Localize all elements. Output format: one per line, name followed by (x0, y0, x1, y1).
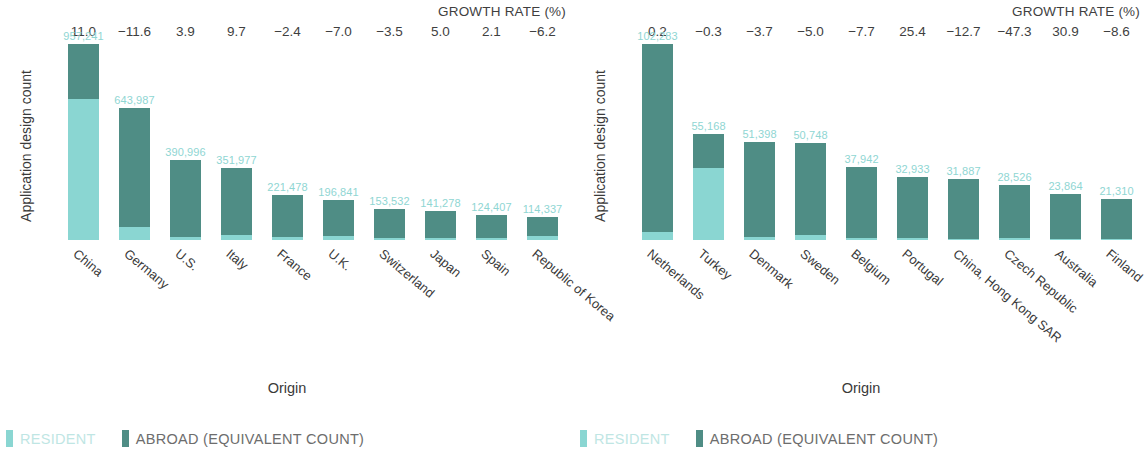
bar-segment-abroad (374, 209, 405, 239)
legend-label-abroad: ABROAD (EQUIVALENT COUNT) (710, 431, 939, 447)
bar-slot: 31,887 (938, 44, 989, 240)
stacked-bar[interactable]: 153,532 (374, 209, 405, 240)
bar-value-label: 21,310 (1099, 185, 1133, 197)
bar-value-label: 153,532 (369, 195, 409, 207)
growth-rate-value: −2.4 (262, 24, 313, 42)
x-tick-slot: Italy (211, 242, 262, 354)
stacked-bar[interactable]: 32,933 (897, 177, 928, 240)
growth-rate-value: −3.7 (734, 24, 785, 42)
plot-area-left: 957,241643,987390,996351,977221,478196,8… (58, 44, 568, 240)
bar-segment-resident (425, 238, 456, 240)
legend-label-resident: RESIDENT (594, 431, 670, 447)
growth-rate-value: −7.0 (313, 24, 364, 42)
legend-left: RESIDENT ABROAD (EQUIVALENT COUNT) (6, 430, 364, 447)
x-tick-slot: Denmark (734, 242, 785, 354)
stacked-bar[interactable]: 124,407 (476, 215, 507, 240)
chart-panel-right: GROWTH RATE (%) 0.2−0.3−3.7−5.0−7.725.4−… (574, 0, 1148, 459)
stacked-bar[interactable]: 221,478 (272, 195, 303, 240)
stacked-bar[interactable]: 37,942 (846, 167, 877, 240)
stacked-bar[interactable]: 196,841 (323, 200, 354, 240)
stacked-bar[interactable]: 114,337 (527, 217, 558, 240)
growth-rate-row-right: 0.2−0.3−3.7−5.0−7.725.4−12.7−47.330.9−8.… (632, 24, 1142, 42)
stacked-bar[interactable]: 141,278 (425, 211, 456, 240)
stacked-bar[interactable]: 643,987 (119, 108, 150, 240)
x-tick-slot: Republic of Korea (517, 242, 568, 354)
stacked-bar[interactable]: 23,864 (1050, 194, 1081, 240)
stacked-bar[interactable]: 51,398 (744, 142, 775, 240)
x-tick-label: Japan (427, 246, 464, 280)
bar-segment-abroad (119, 108, 150, 227)
stacked-bar[interactable]: 28,526 (999, 185, 1030, 240)
bar-segment-abroad (272, 195, 303, 238)
bar-segment-resident (948, 239, 979, 240)
x-tick-label: France (274, 246, 315, 284)
stacked-bar[interactable]: 31,887 (948, 179, 979, 240)
stacked-bar[interactable]: 21,310 (1101, 199, 1132, 240)
bar-value-label: 643,987 (114, 94, 154, 106)
bar-slot: 351,977 (211, 44, 262, 240)
legend-item-abroad-left: ABROAD (EQUIVALENT COUNT) (122, 430, 365, 447)
bar-value-label: 32,933 (895, 163, 929, 175)
bar-segment-resident (693, 168, 724, 240)
stacked-bar[interactable]: 102,283 (642, 44, 673, 240)
bar-segment-resident (374, 238, 405, 240)
bar-segment-abroad (425, 211, 456, 238)
bar-value-label: 51,398 (742, 128, 776, 140)
stacked-bar[interactable]: 351,977 (221, 168, 252, 240)
bar-segment-resident (744, 237, 775, 240)
y-axis-title-right: Application design count (592, 26, 608, 266)
bar-segment-resident (323, 236, 354, 240)
x-tick-label: U.K. (325, 246, 354, 274)
bar-slot: 32,933 (887, 44, 938, 240)
growth-rate-header-right: GROWTH RATE (%) (1012, 4, 1140, 19)
bar-segment-abroad (795, 143, 826, 235)
stacked-bar[interactable]: 390,996 (170, 160, 201, 240)
x-axis-tick-labels-left: ChinaGermanyU.S.ItalyFranceU.K.Switzerla… (58, 242, 568, 354)
growth-rate-header-left: GROWTH RATE (%) (438, 4, 566, 19)
plot-area-right: 102,28355,16851,39850,74837,94232,93331,… (632, 44, 1142, 240)
bar-value-label: 957,241 (63, 30, 103, 42)
bar-value-label: 55,168 (691, 120, 725, 132)
stacked-bar[interactable]: 957,241 (68, 44, 99, 240)
bar-segment-abroad (476, 215, 507, 239)
legend-item-abroad-right: ABROAD (EQUIVALENT COUNT) (696, 430, 939, 447)
bar-slot: 23,864 (1040, 44, 1091, 240)
bar-segment-resident (221, 235, 252, 240)
growth-rate-value: 5.0 (415, 24, 466, 42)
legend-item-resident-left: RESIDENT (6, 430, 96, 447)
bar-value-label: 23,864 (1048, 180, 1082, 192)
x-tick-label: Spain (478, 246, 513, 279)
bar-value-label: 50,748 (793, 129, 827, 141)
bar-segment-abroad (170, 160, 201, 237)
bar-segment-resident (170, 237, 201, 240)
x-tick-label: China (70, 246, 106, 279)
x-tick-slot: U.S. (160, 242, 211, 354)
stacked-bar[interactable]: 55,168 (693, 134, 724, 240)
x-tick-slot: U.K. (313, 242, 364, 354)
bar-segment-resident (642, 232, 673, 240)
x-tick-label: Italy (223, 246, 251, 273)
bar-slot: 124,407 (466, 44, 517, 240)
stacked-bar[interactable]: 50,748 (795, 143, 826, 240)
bar-slot: 55,168 (683, 44, 734, 240)
x-tick-slot: China, Hong Kong SAR (938, 242, 989, 354)
bar-segment-abroad (642, 44, 673, 232)
bar-slot: 51,398 (734, 44, 785, 240)
bar-value-label: 28,526 (997, 171, 1031, 183)
growth-rate-value: −47.3 (989, 24, 1040, 42)
bar-slot: 102,283 (632, 44, 683, 240)
bar-segment-abroad (846, 167, 877, 238)
bar-slot: 153,532 (364, 44, 415, 240)
x-tick-slot: Netherlands (632, 242, 683, 354)
bar-slot: 50,748 (785, 44, 836, 240)
legend-swatch-abroad-icon (122, 430, 129, 447)
bar-slot: 390,996 (160, 44, 211, 240)
bar-segment-resident (476, 238, 507, 240)
bar-segment-abroad (323, 200, 354, 236)
legend-swatch-abroad-icon (696, 430, 703, 447)
growth-rate-value: 3.9 (160, 24, 211, 42)
bar-segment-abroad (897, 177, 928, 238)
bar-slot: 114,337 (517, 44, 568, 240)
bar-segment-resident (119, 227, 150, 240)
bar-segment-resident (999, 238, 1030, 240)
